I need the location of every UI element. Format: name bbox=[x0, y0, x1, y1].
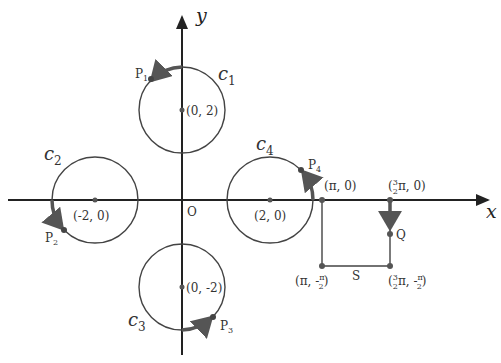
point-3pi2-0-dot bbox=[387, 197, 393, 203]
point-p1-dot bbox=[148, 76, 154, 82]
label-center-c1: (0, 2) bbox=[186, 104, 218, 118]
diagram-canvas: y x O c1 c2 c3 c4 P1 P2 P3 P4 (0, 2) (-2… bbox=[0, 0, 501, 363]
label-c4: c4 bbox=[256, 133, 274, 158]
center-c4-dot bbox=[268, 198, 273, 203]
center-c1-dot bbox=[180, 108, 185, 113]
point-pi-0-dot bbox=[319, 197, 325, 203]
label-center-c3: (0, -2) bbox=[186, 281, 222, 295]
rectangle-path bbox=[322, 200, 390, 266]
point-3pi2-negpi2-dot bbox=[387, 263, 393, 269]
label-p2: P2 bbox=[45, 231, 58, 247]
label-c3: c3 bbox=[128, 309, 146, 334]
label-pi-negpi2: (π, -π2) bbox=[295, 273, 328, 291]
point-p4-dot bbox=[298, 167, 304, 173]
label-p4: P4 bbox=[308, 158, 321, 174]
label-pi-0: (π, 0) bbox=[324, 179, 357, 193]
label-c2: c2 bbox=[44, 143, 62, 168]
point-q-dot bbox=[387, 231, 393, 237]
arc-p2-arrow bbox=[52, 200, 62, 228]
origin-label: O bbox=[187, 205, 197, 219]
label-3pi2-0: (32π, 0) bbox=[388, 178, 426, 196]
arc-p4-arrow bbox=[303, 172, 313, 200]
point-p2-dot bbox=[61, 227, 67, 233]
center-c3-dot bbox=[180, 285, 185, 290]
label-center-c4: (2, 0) bbox=[254, 209, 286, 223]
label-p1: P1 bbox=[135, 67, 148, 83]
point-pi-negpi2-dot bbox=[319, 263, 325, 269]
point-p3-dot bbox=[210, 314, 216, 320]
label-p3: P3 bbox=[220, 319, 233, 335]
arc-p3-arrow bbox=[182, 318, 211, 330]
label-s: S bbox=[352, 269, 360, 283]
arc-p1-arrow bbox=[152, 67, 182, 80]
label-center-c2: (-2, 0) bbox=[73, 209, 109, 223]
x-axis-label: x bbox=[486, 200, 497, 222]
center-c2-dot bbox=[93, 198, 98, 203]
y-axis-label: y bbox=[195, 4, 207, 26]
label-3pi2-negpi2: (32π, -π2) bbox=[388, 273, 427, 291]
label-q: Q bbox=[396, 228, 406, 242]
label-c1: c1 bbox=[218, 63, 236, 88]
